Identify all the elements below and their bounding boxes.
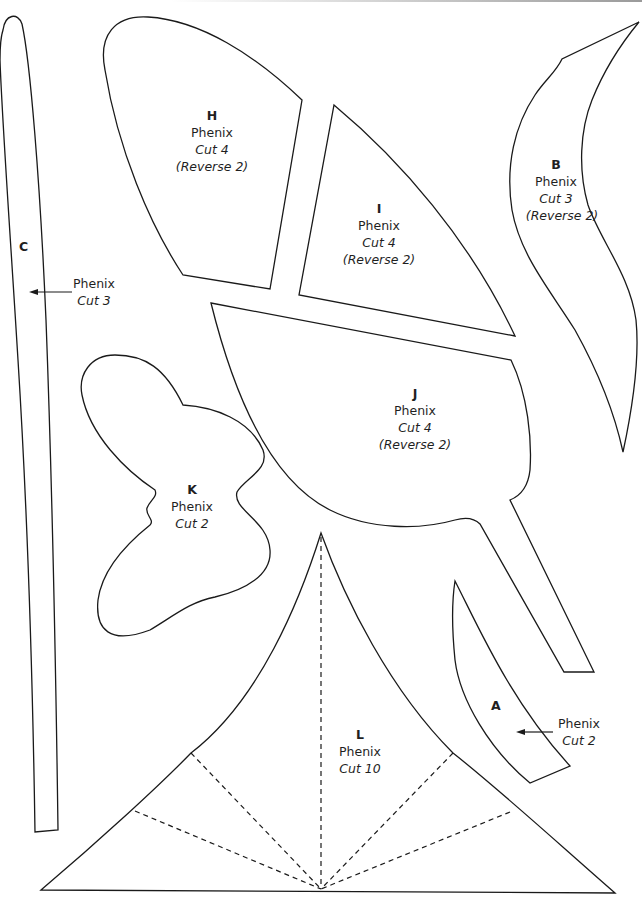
label-piece-a: Phenix Cut 2 — [558, 715, 600, 749]
piece-c-outline[interactable] — [0, 16, 58, 832]
piece-letter: B — [514, 156, 599, 173]
label-piece-c-letter: C — [19, 238, 28, 255]
fabric-name: Phenix — [379, 402, 452, 419]
cut-count: Cut 3 — [73, 292, 115, 309]
cut-count: Cut 10 — [339, 760, 381, 777]
piece-b-outline[interactable] — [510, 22, 639, 452]
fabric-name: Phenix — [514, 173, 599, 190]
piece-j-outline[interactable] — [211, 303, 594, 672]
cut-count: Cut 2 — [171, 515, 213, 532]
fabric-name: Phenix — [171, 498, 213, 515]
label-piece-i: I Phenix Cut 4 (Reverse 2) — [343, 200, 416, 268]
piece-letter: H — [176, 107, 249, 124]
piece-letter: I — [343, 200, 416, 217]
pattern-sheet — [0, 0, 642, 906]
reverse-note: (Reverse 2) — [176, 158, 249, 175]
label-piece-a-letter: A — [491, 697, 501, 714]
label-piece-j: J Phenix Cut 4 (Reverse 2) — [379, 385, 452, 453]
cut-count: Cut 4 — [379, 419, 452, 436]
fabric-name: Phenix — [339, 743, 381, 760]
piece-letter: J — [379, 385, 452, 402]
piece-letter: L — [339, 726, 381, 743]
fabric-name: Phenix — [73, 275, 115, 292]
cut-count: Cut 4 — [343, 234, 416, 251]
label-piece-b: B Phenix Cut 3 (Reverse 2) — [514, 156, 599, 224]
cut-count: Cut 4 — [176, 141, 249, 158]
arrow-c-icon — [29, 289, 72, 295]
reverse-note: (Reverse 2) — [526, 207, 599, 224]
reverse-note: (Reverse 2) — [379, 436, 452, 453]
label-piece-h: H Phenix Cut 4 (Reverse 2) — [176, 107, 249, 175]
label-piece-c: Phenix Cut 3 — [73, 275, 115, 309]
cut-count: Cut 3 — [514, 190, 599, 207]
cut-count: Cut 2 — [558, 732, 600, 749]
fabric-name: Phenix — [558, 715, 600, 732]
fabric-name: Phenix — [343, 217, 416, 234]
reverse-note: (Reverse 2) — [343, 251, 416, 268]
piece-letter: A — [491, 697, 501, 714]
label-piece-l: L Phenix Cut 10 — [339, 726, 381, 777]
fabric-name: Phenix — [176, 124, 249, 141]
label-piece-k: K Phenix Cut 2 — [171, 481, 213, 532]
piece-letter: K — [171, 481, 213, 498]
piece-letter: C — [19, 238, 28, 255]
